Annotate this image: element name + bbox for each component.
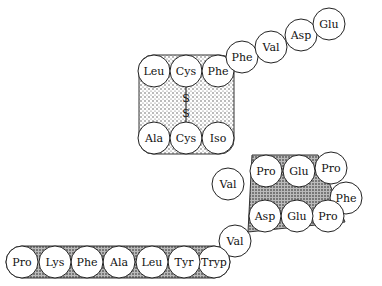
residue-label: Lys <box>46 256 65 269</box>
residue-pro: Pro <box>315 152 347 184</box>
residue-label: Pro <box>256 165 276 178</box>
residue-label: Iso <box>210 132 227 145</box>
residue-label: Glu <box>287 210 306 223</box>
residue-label: Pro <box>12 256 32 269</box>
residue-ala: Ala <box>103 246 135 278</box>
residue-lys: Lys <box>39 246 71 278</box>
residue-label: Val <box>261 41 279 54</box>
residue-iso: Iso <box>202 122 234 154</box>
residue-label: Tyr <box>175 256 195 269</box>
peptide-diagram: S S LeuCysPhePheValAspGluAlaCysIsoValPro… <box>0 0 382 286</box>
residue-label: Leu <box>144 65 165 78</box>
residue-pro: Pro <box>312 200 344 232</box>
sulfur-label: S <box>182 92 190 105</box>
residue-pro: Pro <box>250 155 282 187</box>
residue-val: Val <box>255 31 287 63</box>
sulfur-label: S <box>182 107 190 120</box>
residue-leu: Leu <box>136 246 168 278</box>
residue-label: Leu <box>142 256 163 269</box>
residue-asp: Asp <box>285 19 317 51</box>
residue-label: Ala <box>144 132 163 145</box>
residue-label: Phe <box>77 256 98 269</box>
residue-phe: Phe <box>71 246 103 278</box>
residue-label: Phe <box>208 65 229 78</box>
residue-glu: Glu <box>313 8 345 40</box>
residue-cys: Cys <box>170 55 202 87</box>
residue-tryp: Tryp <box>198 246 230 278</box>
residue-label: Glu <box>319 18 338 31</box>
residue-label: Pro <box>321 162 341 175</box>
residue-val: Val <box>212 168 244 200</box>
residue-pro: Pro <box>6 246 38 278</box>
residue-phe: Phe <box>226 41 258 73</box>
residue-label: Asp <box>254 210 276 223</box>
residue-ala: Ala <box>138 122 170 154</box>
residue-leu: Leu <box>138 55 170 87</box>
residue-cys: Cys <box>170 122 202 154</box>
residue-glu: Glu <box>281 200 313 232</box>
residue-asp: Asp <box>249 200 281 232</box>
residue-label: Glu <box>289 165 308 178</box>
residue-label: Ala <box>109 256 128 269</box>
residue-label: Pro <box>318 210 338 223</box>
residue-label: Phe <box>232 51 253 64</box>
residue-label: Tryp <box>201 256 227 269</box>
residue-label: Asp <box>290 29 312 42</box>
residue-label: Cys <box>176 132 197 145</box>
residue-label: Val <box>218 178 236 191</box>
residue-tyr: Tyr <box>168 246 200 278</box>
residue-label: Phe <box>336 192 357 205</box>
residue-glu: Glu <box>283 155 315 187</box>
residue-label: Cys <box>176 65 197 78</box>
residue-label: Val <box>225 235 243 248</box>
